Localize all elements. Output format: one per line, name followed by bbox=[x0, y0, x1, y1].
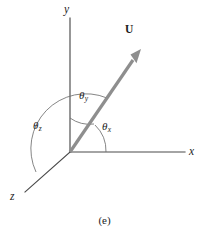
vector-u-label: U bbox=[125, 24, 133, 36]
y-axis-label: y bbox=[64, 4, 69, 16]
vector-u-shaft bbox=[70, 60, 133, 152]
theta-x-label: θx bbox=[102, 121, 111, 134]
theta-z-subscript: z bbox=[39, 124, 42, 133]
theta-z-symbol: θ bbox=[33, 119, 38, 131]
diagram-canvas bbox=[0, 0, 209, 238]
theta-y-symbol: θ bbox=[79, 89, 84, 101]
theta-z-label: θz bbox=[33, 120, 42, 133]
theta-y-label: θy bbox=[79, 90, 88, 103]
theta-z-arc bbox=[31, 94, 107, 172]
x-axis-label: x bbox=[189, 146, 194, 158]
theta-x-subscript: x bbox=[108, 125, 111, 134]
vector-direction-angles-figure: y x z U θy θx θz (e) bbox=[0, 0, 209, 238]
figure-caption: (e) bbox=[0, 214, 209, 226]
z-axis-label: z bbox=[10, 191, 14, 203]
theta-y-subscript: y bbox=[85, 94, 88, 103]
theta-x-symbol: θ bbox=[102, 120, 107, 132]
